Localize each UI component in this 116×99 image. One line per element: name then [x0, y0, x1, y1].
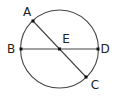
point-d-marker: [97, 48, 100, 51]
point-e-marker: [58, 48, 61, 51]
label-a: A: [23, 5, 32, 19]
label-b: B: [7, 42, 15, 56]
circle-diagram: A B C D E: [0, 0, 116, 99]
label-e: E: [62, 32, 70, 46]
label-d: D: [100, 42, 109, 56]
point-a-marker: [32, 20, 35, 23]
point-b-marker: [20, 48, 23, 51]
label-c: C: [91, 78, 99, 92]
point-c-marker: [85, 76, 88, 79]
